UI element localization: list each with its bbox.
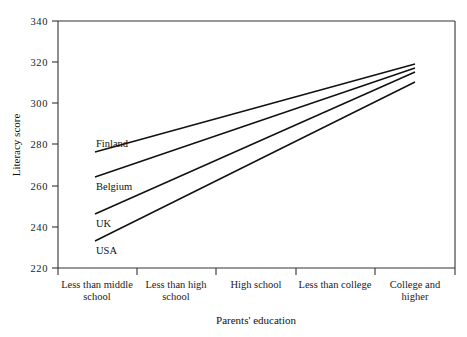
series-label-belgium: Belgium	[96, 181, 132, 192]
xtick-label-1-line1: Less than high	[145, 279, 207, 290]
ytick-label-300: 300	[30, 98, 48, 109]
y-axis-title: Literacy score	[10, 114, 22, 177]
ytick-label-240: 240	[30, 222, 48, 233]
ytick-label-280: 280	[30, 139, 48, 150]
series-label-uk: UK	[96, 218, 112, 229]
ytick-label-320: 320	[30, 57, 48, 68]
ytick-label-220: 220	[30, 263, 48, 274]
xtick-label-1-line2: school	[162, 291, 189, 302]
xtick-label-2-line1: High school	[230, 279, 281, 290]
xtick-label-0-line1: Less than middle	[61, 279, 133, 290]
xtick-label-3-line1: Less than college	[299, 279, 372, 290]
series-label-finland: Finland	[96, 138, 129, 149]
literacy-line-chart: 340 320 300 280 260 240 220 Less than mi…	[0, 0, 467, 337]
x-axis-title: Parents' education	[216, 314, 296, 326]
xtick-label-4-line1: College and	[390, 279, 441, 290]
ytick-label-340: 340	[30, 16, 48, 27]
xtick-label-4-line2: higher	[402, 291, 429, 302]
xtick-label-0-line2: school	[83, 291, 110, 302]
series-label-usa: USA	[96, 245, 117, 256]
chart-figure: 340 320 300 280 260 240 220 Less than mi…	[0, 0, 467, 337]
ytick-label-260: 260	[30, 181, 48, 192]
